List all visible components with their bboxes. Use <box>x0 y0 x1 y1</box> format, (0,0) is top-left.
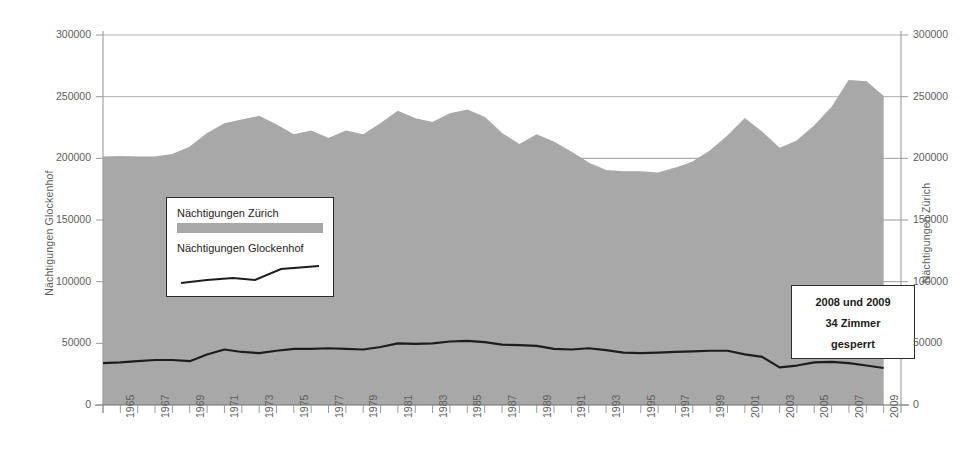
x-tick-label: 1997 <box>679 395 691 418</box>
y-tick-label-right: 50000 <box>913 336 942 348</box>
x-tick-label: 1969 <box>194 395 206 418</box>
chart-canvas: Nächtigungen Glockenhof Nächtigungen Zür… <box>0 0 973 466</box>
legend-item-glockenhof-label: Nächtigungen Glockenhof <box>177 241 323 255</box>
x-tick-label: 2009 <box>888 395 900 418</box>
y-tick-label-right: 250000 <box>913 90 948 102</box>
annotation-line-2: 34 Zimmer <box>792 313 914 334</box>
y-tick-label-right: 300000 <box>913 28 948 40</box>
legend-item-zurich-label: Nächtigungen Zürich <box>177 206 323 220</box>
annotation-line-3: gesperrt <box>792 334 914 355</box>
x-tick-label: 1971 <box>228 395 240 418</box>
x-tick-label: 1967 <box>159 395 171 418</box>
y-tick-label-left: 150000 <box>56 213 91 225</box>
x-tick-label: 1973 <box>263 395 275 418</box>
y-tick-label-left: 50000 <box>62 336 91 348</box>
x-tick-label: 2007 <box>853 395 865 418</box>
x-tick-label: 2003 <box>784 395 796 418</box>
x-tick-label: 1995 <box>645 395 657 418</box>
y-tick-label-left: 250000 <box>56 90 91 102</box>
x-tick-label: 1965 <box>124 395 136 418</box>
x-tick-label: 1987 <box>506 395 518 418</box>
y-tick-label-left: 0 <box>85 398 91 410</box>
x-tick-label: 1993 <box>610 395 622 418</box>
legend-line-sample-icon <box>177 259 323 289</box>
x-tick-label: 2005 <box>818 395 830 418</box>
x-tick-label: 1985 <box>471 395 483 418</box>
y-tick-label-left: 300000 <box>56 28 91 40</box>
legend: Nächtigungen Zürich Nächtigungen Glocken… <box>166 197 334 297</box>
y-tick-label-right: 200000 <box>913 151 948 163</box>
y-tick-label-right: 100000 <box>913 275 948 287</box>
annotation-line-1: 2008 und 2009 <box>792 292 914 313</box>
annotation-rooms-closed: 2008 und 2009 34 Zimmer gesperrt <box>791 285 915 359</box>
y-tick-label-left: 100000 <box>56 275 91 287</box>
y-tick-label-right: 0 <box>913 398 919 410</box>
x-tick-label: 1979 <box>367 395 379 418</box>
x-tick-label: 1989 <box>541 395 553 418</box>
x-tick-label: 1999 <box>714 395 726 418</box>
x-tick-label: 1977 <box>333 395 345 418</box>
x-tick-label: 1983 <box>437 395 449 418</box>
x-tick-label: 1991 <box>575 395 587 418</box>
x-tick-label: 2001 <box>749 395 761 418</box>
x-tick-label: 1981 <box>402 395 414 418</box>
y-tick-label-left: 200000 <box>56 151 91 163</box>
y-tick-label-right: 150000 <box>913 213 948 225</box>
legend-area-swatch-icon <box>177 223 323 233</box>
x-tick-label: 1975 <box>298 395 310 418</box>
